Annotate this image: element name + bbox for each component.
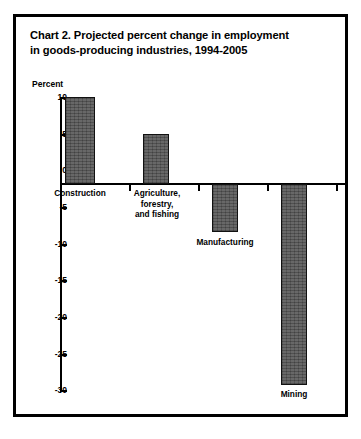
y-tick-label: -5 xyxy=(41,203,67,211)
y-tick-label: 0 xyxy=(41,166,67,174)
y-tick-label: -15 xyxy=(41,276,67,284)
y-tick-label: 5 xyxy=(41,130,67,138)
bar-manufacturing xyxy=(212,184,238,232)
bar-mining xyxy=(281,184,307,385)
bar-label-agriculture: Agriculture, forestry, and fishing xyxy=(126,188,188,220)
chart-figure-frame: Chart 2. Projected percent change in emp… xyxy=(13,14,348,417)
y-axis-title: Percent xyxy=(32,79,63,89)
y-tick-label: -20 xyxy=(41,313,67,321)
bar-agriculture xyxy=(143,134,169,184)
y-tick-label: -30 xyxy=(41,386,67,394)
y-tick-label: -25 xyxy=(41,350,67,358)
bar-label-construction: Construction xyxy=(50,188,110,199)
bar-construction xyxy=(65,97,95,184)
plot-area: Percent 10 5 0 -5 -10 -15 -20 xyxy=(16,17,351,420)
bar-label-manufacturing: Manufacturing xyxy=(186,237,264,248)
y-tick-label: 10 xyxy=(41,93,67,101)
y-tick-label: -10 xyxy=(41,240,67,248)
x-axis-tick xyxy=(267,185,269,191)
bar-label-mining: Mining xyxy=(265,389,323,400)
x-axis-tick xyxy=(336,185,338,191)
x-axis-tick xyxy=(198,185,200,191)
